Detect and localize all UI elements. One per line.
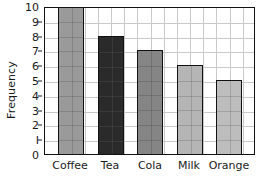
y-tick-mark xyxy=(38,95,42,96)
y-tick-mark xyxy=(38,21,42,22)
bar-inner-gridline xyxy=(59,66,83,67)
bar-inner-gridline xyxy=(99,141,123,142)
bar-orange xyxy=(216,80,242,154)
bar-inner-gridline xyxy=(59,96,83,97)
gridline-vertical xyxy=(85,8,86,154)
bar-inner-gridline xyxy=(151,51,152,154)
bar-inner-gridline xyxy=(217,96,241,97)
y-tick-label: 0 xyxy=(32,150,39,161)
y-tick-mark xyxy=(38,81,42,82)
gridline-vertical xyxy=(203,8,204,154)
bar-milk xyxy=(177,65,203,154)
bar-inner-gridline xyxy=(138,140,162,141)
bar-inner-gridline xyxy=(59,51,83,52)
bar-chart-figure: Frequency 0I2345678910 CoffeeTeaColaMilk… xyxy=(0,0,261,180)
bar-inner-gridline xyxy=(138,81,162,82)
bar-inner-gridline xyxy=(59,140,83,141)
x-tick-label-cola: Cola xyxy=(138,157,162,175)
bar-inner-gridline xyxy=(191,66,192,154)
bar-inner-gridline xyxy=(99,111,123,112)
bar-inner-gridline xyxy=(99,96,123,97)
bar-inner-gridline xyxy=(217,125,241,126)
bar-tea xyxy=(98,36,124,154)
bar-inner-gridline xyxy=(59,111,83,112)
bar-inner-gridline xyxy=(99,81,123,82)
bar-inner-gridline xyxy=(99,67,123,68)
bar-inner-gridline xyxy=(217,111,241,112)
bar-inner-gridline xyxy=(138,125,162,126)
y-tick-mark xyxy=(38,51,42,52)
bar-inner-gridline xyxy=(72,7,73,154)
gridline-vertical xyxy=(164,8,165,154)
x-tick-label-milk: Milk xyxy=(178,157,200,175)
bar-inner-gridline xyxy=(138,110,162,111)
bar-cola xyxy=(137,50,163,154)
gridline-vertical xyxy=(243,8,244,154)
bar-inner-gridline xyxy=(99,126,123,127)
x-tick-label-tea: Tea xyxy=(101,157,119,175)
y-tick-mark xyxy=(38,110,42,111)
bar-coffee xyxy=(58,7,84,154)
bar-inner-gridline xyxy=(59,37,83,38)
bar-inner-gridline xyxy=(178,125,202,126)
bar-inner-gridline xyxy=(178,140,202,141)
plot-area xyxy=(44,7,255,155)
y-axis-title: Frequency xyxy=(0,0,22,180)
bar-inner-gridline xyxy=(138,95,162,96)
bar-inner-gridline xyxy=(178,96,202,97)
bar-inner-gridline xyxy=(59,125,83,126)
bar-inner-gridline xyxy=(59,81,83,82)
y-tick-mark xyxy=(38,125,42,126)
y-axis-tick-labels: 0I2345678910 xyxy=(20,0,42,180)
y-tick-mark xyxy=(38,140,42,141)
bar-inner-gridline xyxy=(112,37,113,154)
bar-inner-gridline xyxy=(217,140,241,141)
x-axis-tick-labels: CoffeeTeaColaMilkOrange xyxy=(44,157,255,177)
bar-inner-gridline xyxy=(230,81,231,154)
x-tick-label-orange: Orange xyxy=(209,157,250,175)
bar-inner-gridline xyxy=(178,110,202,111)
y-tick-label: 10 xyxy=(25,2,39,13)
bar-inner-gridline xyxy=(99,52,123,53)
bar-inner-gridline xyxy=(138,66,162,67)
x-tick-label-coffee: Coffee xyxy=(52,157,88,175)
y-tick-mark xyxy=(38,66,42,67)
bar-inner-gridline xyxy=(178,81,202,82)
bar-inner-gridline xyxy=(59,22,83,23)
y-tick-mark xyxy=(38,36,42,37)
gridline-vertical xyxy=(124,8,125,154)
